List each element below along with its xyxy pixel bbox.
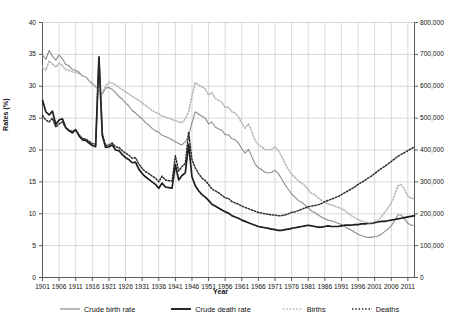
legend-swatch-dotted-icon [352,305,372,313]
legend-swatch-solid-icon [60,305,80,313]
chart-root: Rates (%) Year 0510152025303540 0100,000… [0,0,459,324]
legend-swatch-dotted-icon [283,305,303,313]
legend-swatch-solid-icon [171,305,191,313]
legend-label: Births [307,305,326,314]
legend-item-crude-birth-rate[interactable]: Crude birth rate [60,305,135,314]
series-lines [43,51,415,238]
legend-label: Crude death rate [195,305,250,314]
legend-item-deaths[interactable]: Deaths [352,305,399,314]
series-line-deaths [43,58,415,216]
legend-item-births[interactable]: Births [283,305,326,314]
legend-label: Crude birth rate [84,305,135,314]
legend-item-crude-death-rate[interactable]: Crude death rate [171,305,250,314]
plot-area [0,0,459,324]
legend-label: Deaths [376,305,399,314]
axis-lines [39,23,418,282]
chart-legend: Crude birth rateCrude death rateBirthsDe… [0,299,459,319]
